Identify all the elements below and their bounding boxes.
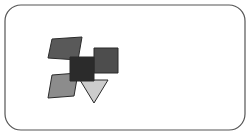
shape-composition-svg [0, 0, 250, 135]
figure-canvas [0, 0, 250, 135]
rounded-rectangle-border [5, 5, 245, 130]
center-square[interactable] [70, 57, 94, 81]
right-square[interactable] [94, 48, 118, 73]
